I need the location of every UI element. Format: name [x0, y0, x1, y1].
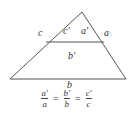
ratio-formula: a′ a = b′ b = c′ c — [0, 88, 133, 109]
label-a-prime: a′ — [81, 25, 89, 36]
numerator: b′ — [63, 88, 71, 98]
label-c: c — [38, 27, 43, 38]
label-b-prime: b′ — [68, 50, 76, 61]
denominator: c — [86, 98, 92, 109]
equals-sign: = — [53, 93, 59, 104]
label-c-prime: c′ — [63, 25, 70, 36]
fraction-b: b′ b — [63, 88, 71, 109]
outer-triangle — [10, 12, 126, 79]
fraction-a: a′ a — [40, 88, 48, 109]
denominator: a — [41, 98, 48, 109]
equals-sign: = — [75, 93, 81, 104]
numerator: a′ — [40, 88, 48, 98]
denominator: b — [64, 98, 71, 109]
label-a: a — [104, 27, 109, 38]
numerator: c′ — [85, 88, 93, 98]
fraction-c: c′ c — [85, 88, 93, 109]
